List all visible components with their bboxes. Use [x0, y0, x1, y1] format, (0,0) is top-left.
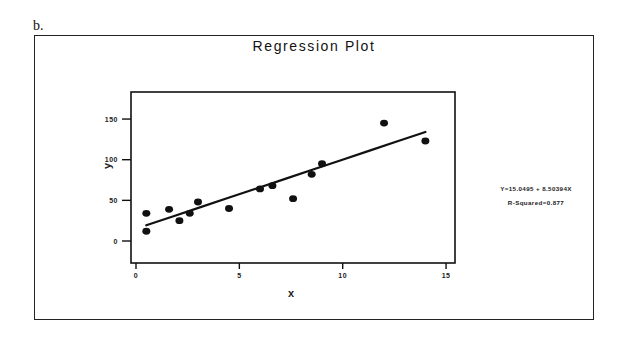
data-point: [186, 210, 194, 217]
y-axis-label: y: [101, 162, 113, 169]
x-axis-label: x: [288, 287, 295, 299]
data-point: [225, 205, 233, 212]
data-point: [380, 120, 388, 127]
data-point: [289, 195, 297, 202]
y-tick-label: 150: [105, 116, 118, 123]
data-point: [142, 210, 150, 217]
y-tick-label: 100: [105, 156, 118, 163]
data-point: [194, 199, 202, 206]
y-tick-label: 50: [109, 197, 118, 204]
data-point: [165, 206, 173, 213]
data-point: [256, 186, 264, 193]
data-point: [175, 217, 183, 224]
plot-area-border: [131, 92, 455, 263]
r-squared-value: R-Squared=0.877: [466, 199, 606, 206]
x-tick-label: 15: [442, 272, 451, 279]
y-tick-label: 0: [114, 238, 118, 245]
regression-equation: Y=15.0495 + 8.50394X: [466, 185, 606, 192]
data-point: [318, 160, 326, 167]
data-point: [142, 228, 150, 235]
x-tick-label: 5: [237, 272, 241, 279]
data-point: [308, 171, 316, 178]
regression-plot: 050100150051015xy: [0, 0, 622, 338]
x-tick-label: 0: [134, 272, 138, 279]
data-point: [268, 182, 276, 189]
x-tick-label: 10: [338, 272, 347, 279]
data-point: [421, 138, 429, 145]
